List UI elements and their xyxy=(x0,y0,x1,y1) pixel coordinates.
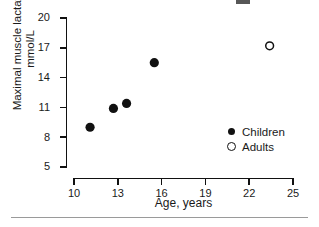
y-axis-title: Maximal muscle lactate, mmol/L xyxy=(11,0,37,129)
y-tick-label-17: 17 xyxy=(38,42,50,53)
footer-divider xyxy=(11,217,308,218)
open-circle-icon xyxy=(224,139,242,154)
y-tick-label-11: 11 xyxy=(39,102,50,113)
y-tick-label-20: 20 xyxy=(38,12,50,23)
y-tick-label-5: 5 xyxy=(44,161,50,172)
data-point-adults-1 xyxy=(266,42,274,50)
filled-circle-icon xyxy=(224,124,242,139)
legend-label-adults: Adults xyxy=(242,141,274,153)
y-tick-label-8: 8 xyxy=(44,132,50,143)
series-children-markers xyxy=(85,58,158,132)
figure-scatter-plot: 20 17 14 11 8 5 10 13 16 19 22 25 Maxima… xyxy=(0,0,319,227)
data-point-children-3 xyxy=(122,99,131,108)
legend: Children Adults xyxy=(224,124,316,154)
data-point-children-2 xyxy=(109,104,118,113)
data-point-children-1 xyxy=(85,123,94,132)
series-adults-markers xyxy=(266,42,274,50)
y-tick-label-14: 14 xyxy=(38,72,50,83)
x-axis-title: Age, years xyxy=(74,196,293,210)
data-point-children-4 xyxy=(150,58,159,67)
legend-label-children: Children xyxy=(242,126,285,138)
legend-item-children: Children xyxy=(224,124,316,139)
legend-item-adults: Adults xyxy=(224,139,316,154)
